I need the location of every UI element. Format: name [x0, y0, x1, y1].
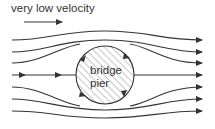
- streamline-7: [12, 111, 202, 118]
- pier-label-line2: pier: [90, 77, 122, 90]
- streamline-1: [12, 31, 202, 40]
- velocity-label: very low velocity: [11, 2, 95, 14]
- flow-diagram: very low velocity bridge pier: [0, 0, 215, 129]
- pier-label: bridge pier: [90, 64, 122, 90]
- pier-label-line1: bridge: [90, 64, 122, 77]
